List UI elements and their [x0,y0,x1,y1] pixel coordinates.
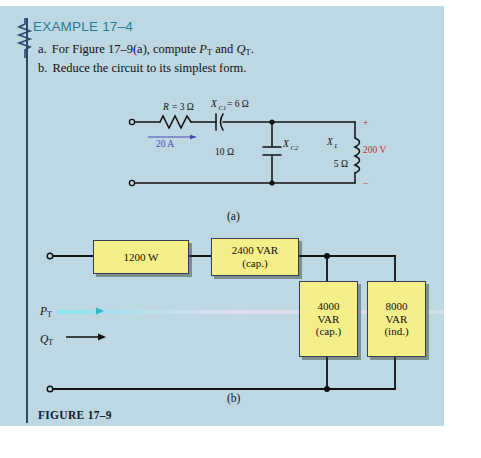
reactive-cap-4000-line3: (cap.) [316,325,341,338]
page-bottom-margin [0,426,481,458]
qt-subscript: T [48,338,53,347]
qt-label: QT [40,333,53,347]
real-power-block-line1: 1200 W [124,251,159,264]
reactive-cap-4000-line2: VAR [318,313,340,326]
reactive-cap-4000-block[interactable]: 4000 VAR (cap.) [299,281,358,357]
figure-page: EXAMPLE 17–4 a.For Figure 17–9(a), compu… [0,0,481,458]
reactive-cap-2400-line1: 2400 VAR [232,244,278,257]
pt-symbol: P [40,305,47,317]
pt-subscript: T [47,310,52,319]
node-bottom-b [324,386,330,392]
terminal-top-b [47,253,53,259]
qt-arrow [66,334,106,341]
caption-b: (b) [227,392,240,404]
block-diagram-b [0,0,481,458]
node-top-b [324,253,330,259]
reactive-ind-8000-block[interactable]: 8000 VAR (ind.) [367,281,426,357]
reactive-ind-8000-line3: (ind.) [384,325,408,338]
pt-arrow [58,303,118,319]
reactive-cap-2400-block[interactable]: 2400 VAR (cap.) [211,238,299,276]
page-right-margin [444,0,481,458]
reactive-cap-2400-line2: (cap.) [242,257,267,270]
pt-label: PT [40,305,52,319]
reactive-ind-8000-line2: VAR [386,313,408,326]
reactive-ind-8000-line1: 8000 [386,300,408,313]
reactive-cap-4000-line1: 4000 [318,300,340,313]
terminal-bottom-b [47,386,53,392]
real-power-block[interactable]: 1200 W [93,240,189,274]
figure-number-label: FIGURE 17–9 [38,409,112,421]
